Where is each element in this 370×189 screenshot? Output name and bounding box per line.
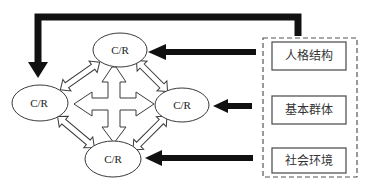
factor-arrow-social-env <box>145 150 253 166</box>
arrowhead-left-icon <box>213 99 228 113</box>
factor-arrow-personality <box>148 44 256 60</box>
arrowhead-down-icon <box>28 62 48 78</box>
factor-box-social-env: 社会环境 <box>272 148 346 173</box>
node-right: C/R <box>155 88 209 122</box>
factor-label: 社会环境 <box>285 153 333 168</box>
node-bottom: C/R <box>85 141 141 177</box>
cr-interaction-diagram: C/R C/R C/R C/R 人格结构 基本群体 社会环境 <box>0 0 370 189</box>
node-label: C/R <box>104 153 122 165</box>
factor-label: 基本群体 <box>285 103 333 117</box>
arrowhead-left-icon <box>148 44 166 60</box>
double-arrow-top-left <box>56 57 103 96</box>
node-label: C/R <box>30 97 48 109</box>
factor-group: 人格结构 基本群体 社会环境 <box>263 38 357 177</box>
node-top: C/R <box>93 33 147 67</box>
node-left: C/R <box>12 85 68 121</box>
arrowhead-left-icon <box>145 150 162 166</box>
node-label: C/R <box>173 99 191 111</box>
factor-box-personality: 人格结构 <box>272 42 346 70</box>
four-way-arrow-icon <box>74 67 154 143</box>
factor-label: 人格结构 <box>285 48 333 63</box>
factor-arrow-basic-group <box>213 99 252 113</box>
factor-box-basic-group: 基本群体 <box>272 96 346 124</box>
node-label: C/R <box>111 44 129 56</box>
